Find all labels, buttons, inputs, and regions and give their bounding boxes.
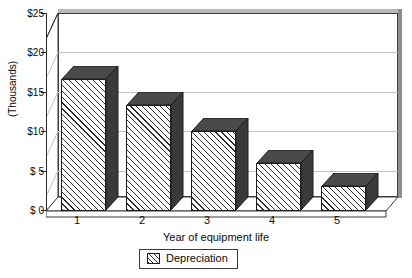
gridline-20 [58,52,398,53]
y-axis-title: (Thousands) [8,29,18,149]
x-axis-title: Year of equipment life [126,232,306,243]
bar-year-2 [126,92,171,211]
chart-legend: Depreciation [139,249,238,269]
bar-front-face-4 [256,163,301,211]
x-label-3: 3 [187,215,227,226]
bar-year-4 [256,150,301,211]
bar-front-face-1 [61,79,106,211]
bar-chart: $25 $20 $15 $10 $ 5 $ 0 (Thousands) [0,0,412,278]
y-label-0: $ 0 [8,206,44,216]
plot-left-wall [46,13,58,211]
legend-label-depreciation: Depreciation [166,253,228,264]
bar-front-face-3 [191,131,236,211]
bar-side-face-2 [170,92,184,211]
bar-year-5 [321,173,366,211]
legend-swatch-icon [147,253,160,264]
bar-side-face-3 [235,118,249,211]
bar-front-face-2 [126,105,171,211]
x-label-4: 4 [252,215,292,226]
y-label-5: $ 5 [8,167,44,177]
y-axis-line [46,13,47,211]
bar-side-face-5 [365,173,379,211]
bar-year-3 [191,118,236,211]
bar-year-1 [61,66,106,211]
x-label-5: 5 [317,215,357,226]
plot-right-edge [398,9,402,198]
x-label-2: 2 [122,215,162,226]
bar-side-face-1 [105,66,119,211]
bar-front-face-5 [321,186,366,211]
bar-side-face-4 [300,150,314,211]
x-label-1: 1 [57,215,97,226]
y-label-25: $25 [8,9,44,19]
y-axis-labels: $25 $20 $15 $10 $ 5 $ 0 [0,0,44,278]
